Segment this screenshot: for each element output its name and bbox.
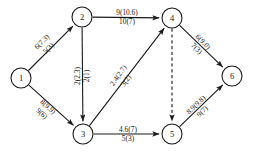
node-1[interactable]: 1 [11,68,31,88]
edge-label-upper-2-3: 2(2.3) [73,67,82,85]
node-4[interactable]: 4 [162,8,182,28]
edge-label-lower-2-3: 2(1) [82,69,91,82]
edge-label-lower-3-5: 5(3) [122,134,135,143]
edge-label-1-to-3: 8(9.9)9(6) [32,97,58,123]
node-3[interactable]: 3 [73,124,93,144]
node-2[interactable]: 2 [72,7,92,27]
edge-labels-group: 6(7.3)5(3)8(9.9)9(6)9(10.6)10(7)2(2.3)2(… [32,8,214,143]
node-label-2: 2 [80,12,84,22]
network-diagram: 123456 6(7.3)5(3)8(9.9)9(6)9(10.6)10(7)2… [0,0,255,155]
node-label-6: 6 [230,71,234,81]
network-graph-canvas: 123456 6(7.3)5(3)8(9.9)9(6)9(10.6)10(7)2… [0,0,255,155]
edge-label-upper-2-4: 9(10.6) [116,8,138,17]
node-label-1: 1 [19,73,23,83]
node-label-3: 3 [81,129,85,139]
node-6[interactable]: 6 [222,66,242,86]
edge-label-3-to-4: 2.4(2.7)3(2) [108,63,137,93]
node-5[interactable]: 5 [162,124,182,144]
node-label-5: 5 [170,129,174,139]
edge-label-lower-2-4: 10(7) [119,17,136,26]
edge-label-upper-3-5: 4.6(7) [119,125,137,134]
edge-label-2-to-4: 9(10.6)10(7) [116,8,138,26]
